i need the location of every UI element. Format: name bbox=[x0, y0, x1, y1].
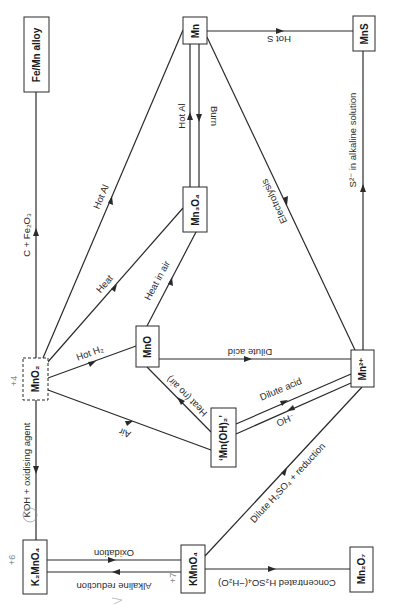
edge-label: Air bbox=[117, 426, 132, 440]
edge-label: Burn bbox=[209, 106, 220, 126]
arrowhead-icon bbox=[88, 361, 96, 367]
edge-mnoh2-to-mno: Heat (no air) bbox=[147, 367, 211, 432]
node-mn: Mn bbox=[183, 17, 207, 44]
node-mno2: MnO₂ bbox=[23, 358, 48, 400]
edge-k2mno4-to-kmno4: Oxidation bbox=[47, 548, 181, 563]
node-mns: MnS bbox=[353, 16, 375, 51]
arrowhead-icon bbox=[360, 184, 366, 192]
node-label: K₂MnO₄ bbox=[30, 547, 41, 586]
node-mn3o4: Mn₃O₄ bbox=[183, 187, 207, 232]
edge-mno2-to-mn3o4: Heat bbox=[47, 208, 183, 363]
node-mn2plus: Mn²⁺ bbox=[351, 350, 374, 387]
arrowhead-icon bbox=[276, 28, 284, 34]
arrowhead-icon bbox=[187, 112, 193, 120]
arrowhead-icon bbox=[125, 421, 133, 426]
handwritten-oxidation-state: +6 bbox=[7, 555, 17, 565]
edge-label: Heat (no air) bbox=[164, 374, 209, 419]
node-mno: MnO bbox=[136, 326, 159, 367]
node-fe-mn-alloy: Fe/Mn alloy bbox=[24, 17, 49, 92]
node-label: ‘Mn(OH)₂’ bbox=[218, 415, 229, 461]
node-label: MnO₂ bbox=[30, 366, 41, 393]
arrowhead-icon bbox=[111, 284, 117, 292]
node-mn-oh-2: ‘Mn(OH)₂’ bbox=[211, 408, 236, 467]
edge-label: Hot S bbox=[267, 34, 291, 45]
edge-label: Hot Al bbox=[176, 103, 187, 128]
node-kmno4: KMnO₄ bbox=[181, 545, 205, 593]
edge-mno2-to-mn: Hot Al bbox=[43, 30, 183, 358]
arrowhead-icon bbox=[283, 196, 288, 206]
node-label: MnS bbox=[359, 23, 370, 44]
edge-label: Alkaline reduction bbox=[77, 581, 152, 592]
arrowhead-icon bbox=[280, 400, 288, 406]
edge-label: Hot H₂ bbox=[75, 343, 105, 363]
edge-label: OH⁻ bbox=[275, 411, 297, 429]
node-label: Fe/Mn alloy bbox=[31, 27, 42, 82]
edge-kmno4-to-mn2o7: Concentrated H₂SO₄(−H₂O) bbox=[205, 566, 350, 589]
node-mn2o7: Mn₂O₇ bbox=[350, 547, 373, 592]
node-label: Mn²⁺ bbox=[357, 358, 368, 381]
arrowhead-icon bbox=[196, 114, 202, 122]
edge-mno2-to-k2mno4: KOH + oxidising agent bbox=[21, 400, 39, 540]
handwritten-oxidation-state: +4 bbox=[9, 376, 19, 386]
node-label: Mn₃O₄ bbox=[190, 194, 201, 226]
node-label: MnO bbox=[142, 336, 153, 358]
edge-label: S²⁻ in alkaline solution bbox=[347, 93, 358, 188]
handwritten-oxidation-state: +7 bbox=[168, 573, 178, 583]
edge-kmno4-to-k2mno4: Alkaline reduction bbox=[47, 569, 181, 592]
edge-mno2-to-mno: Hot H₂ bbox=[48, 343, 136, 378]
arrowhead-icon bbox=[287, 405, 295, 411]
edge-label: Dilute H₂SO₄ + reduction bbox=[248, 440, 328, 524]
arrowhead-icon bbox=[33, 228, 39, 236]
edge-label: Heat bbox=[94, 272, 116, 295]
arrowhead-icon bbox=[268, 566, 276, 572]
arrowhead-icon bbox=[112, 569, 120, 575]
edge-mn2plus-to-mn: Electrolysis bbox=[207, 37, 355, 350]
node-label: Mn bbox=[190, 24, 201, 38]
edge-label: Oxidation bbox=[94, 548, 134, 559]
edge-mno-to-mn2plus: Dilute acid bbox=[159, 347, 351, 362]
manganese-reaction-diagram: C + Fe₂O₃ Hot Al Heat Heat in air Hot H₂… bbox=[0, 0, 394, 610]
edge-label: Dilute acid bbox=[228, 347, 272, 358]
edge-mno2-to-alloy: C + Fe₂O₃ bbox=[21, 92, 39, 358]
arrowhead-icon bbox=[33, 466, 39, 474]
edge-mn2plus-to-mnoh2: OH⁻ bbox=[236, 383, 351, 434]
node-label: Mn₂O₇ bbox=[356, 554, 367, 585]
edge-mn-to-mn3o4: Burn bbox=[196, 44, 220, 187]
edge-label: Concentrated H₂SO₄(−H₂O) bbox=[218, 578, 336, 589]
edge-label: Dilute acid bbox=[258, 375, 303, 402]
edge-label: KOH + oxidising agent bbox=[21, 422, 32, 517]
node-label: KMnO₄ bbox=[188, 552, 199, 586]
edge-mn2plus-to-mns: S²⁻ in alkaline solution bbox=[347, 51, 366, 350]
edge-label: C + Fe₂O₃ bbox=[21, 213, 32, 257]
edge-label: Heat in air bbox=[142, 259, 172, 302]
edge-mn3o4-to-mn: Hot Al bbox=[176, 44, 193, 187]
handwritten-check-mark bbox=[112, 598, 122, 604]
edge-mn-to-mns: Hot S bbox=[207, 28, 353, 45]
node-k2mno4: K₂MnO₄ bbox=[23, 540, 47, 594]
